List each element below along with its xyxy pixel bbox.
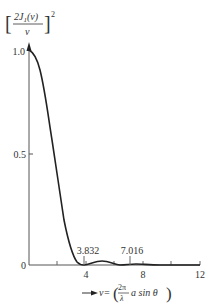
arrow-right-icon	[91, 291, 98, 296]
svg-text:[: [	[5, 12, 12, 34]
svg-text:v=: v=	[99, 287, 110, 298]
annotation-second-zero: 7.016	[121, 245, 144, 256]
y-axis-label: [ 2J1(v) v ] 2	[5, 10, 55, 37]
svg-text:a sin θ: a sin θ	[131, 287, 158, 298]
annotation-first-zero: 3.832	[77, 245, 100, 256]
x-axis-label: v= ( 2π λ a sin θ )	[82, 283, 172, 303]
svg-text:2π: 2π	[118, 283, 126, 292]
y-axis-arrow-icon	[27, 42, 32, 51]
svg-text:]: ]	[44, 12, 51, 34]
svg-text:2J1(v): 2J1(v)	[14, 11, 39, 24]
airy-pattern-chart: 1.0 0.5 0 4 8 12 3.832 7.016 [ 2J1(v) v …	[0, 0, 211, 306]
x-tick-label: 8	[141, 269, 146, 280]
y-tick-label: 1.0	[13, 46, 26, 57]
intensity-curve	[29, 50, 200, 265]
svg-text:2: 2	[51, 10, 55, 19]
svg-text:λ: λ	[119, 294, 124, 303]
x-tick-label: 4	[84, 269, 89, 280]
y-tick-label: 0	[21, 260, 26, 271]
x-tick-label: 12	[195, 269, 205, 280]
svg-text:v: v	[25, 26, 30, 37]
y-tick-label: 0.5	[14, 149, 27, 160]
svg-text:): )	[166, 284, 172, 303]
